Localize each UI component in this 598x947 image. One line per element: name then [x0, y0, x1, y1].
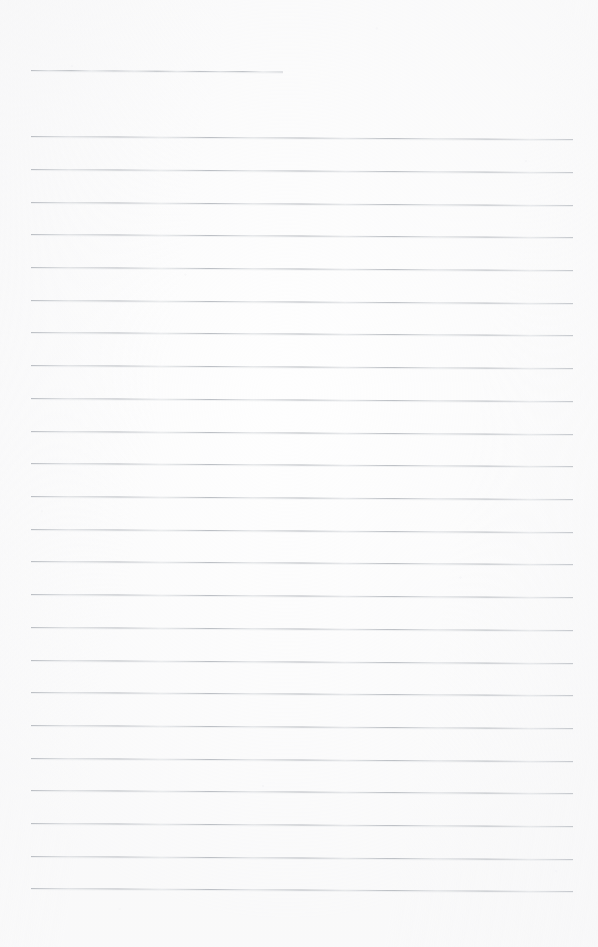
ruled-line — [31, 529, 573, 533]
ruled-line-stroke — [31, 332, 573, 336]
paper-texture — [0, 0, 598, 947]
ruled-line-stroke — [31, 823, 573, 827]
ruled-line-stroke — [31, 300, 573, 304]
ruled-line-stroke — [31, 758, 573, 762]
ruled-line-stroke — [31, 496, 573, 500]
ruled-line-stroke — [31, 790, 573, 794]
ruled-line — [31, 758, 573, 762]
ruled-line — [31, 594, 573, 598]
ruled-line-stroke — [31, 70, 283, 72]
ruled-line — [31, 725, 573, 729]
ruled-line — [31, 561, 573, 565]
ruled-line-stroke — [31, 529, 573, 533]
ruled-line — [31, 496, 573, 500]
ruled-line — [31, 398, 573, 402]
ruled-line-stroke — [31, 594, 573, 598]
ruled-line-stroke — [31, 660, 573, 664]
ruled-line — [31, 136, 573, 140]
ruled-line-stroke — [31, 169, 573, 173]
scan-noise — [0, 0, 598, 947]
ruled-line — [31, 856, 573, 860]
ruled-line — [31, 431, 573, 435]
ruled-line-stroke — [31, 627, 573, 631]
ruled-line-stroke — [31, 136, 573, 140]
ruled-line — [31, 660, 573, 664]
ruled-line — [31, 692, 573, 696]
ruled-line — [31, 202, 573, 206]
ruled-line — [31, 627, 573, 631]
ruled-line-stroke — [31, 692, 573, 696]
ruled-line-stroke — [31, 365, 573, 369]
ruled-line — [31, 790, 573, 794]
ruled-line — [31, 169, 573, 173]
ruled-line-stroke — [31, 234, 573, 238]
ruled-line-stroke — [31, 267, 573, 271]
ruled-line — [31, 365, 573, 369]
ruled-line-stroke — [31, 888, 573, 892]
ruled-line-stroke — [31, 398, 573, 402]
ruled-line-stroke — [31, 725, 573, 729]
ruled-line — [31, 267, 573, 271]
ruled-line-stroke — [31, 431, 573, 435]
ruled-line-stroke — [31, 202, 573, 206]
ruled-line-stroke — [31, 463, 573, 467]
ruled-line-stroke — [31, 561, 573, 565]
ruled-line — [31, 823, 573, 827]
ruled-line — [31, 300, 573, 304]
ruled-line — [31, 332, 573, 336]
ruled-line — [31, 888, 573, 892]
ruled-line — [31, 234, 573, 238]
ruled-line — [31, 463, 573, 467]
ruled-line — [31, 70, 283, 72]
ruled-line-stroke — [31, 856, 573, 860]
scanned-page — [0, 0, 598, 947]
